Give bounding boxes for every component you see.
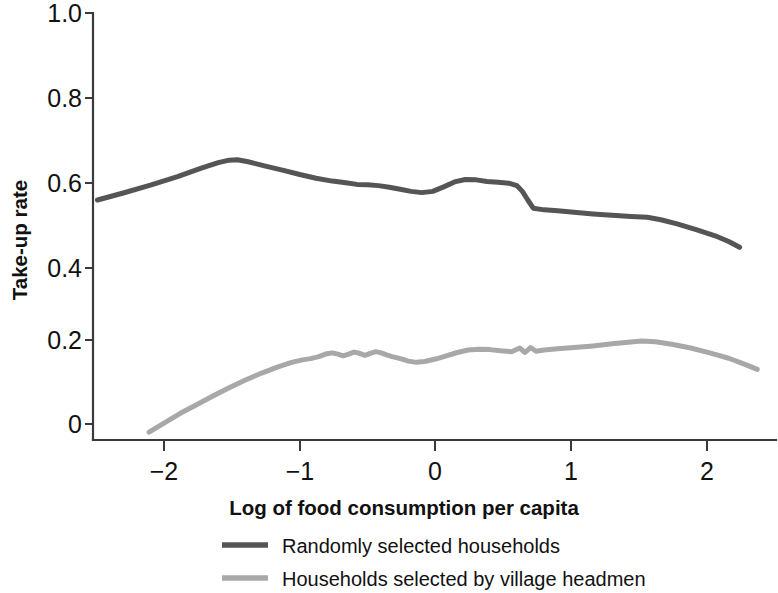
chart-figure: Take-up rate 1.0 0.8 0.6 0.4 0.2 0 −2 −1… [0, 0, 778, 593]
y-axis-title: Take-up rate [8, 180, 31, 300]
y-tick-label: 0 [68, 410, 82, 438]
legend-label-randomly-selected: Randomly selected households [282, 535, 560, 557]
y-tick-label: 0.6 [47, 169, 82, 197]
x-axis-title: Log of food consumption per capita [229, 496, 579, 519]
x-tick-label: −1 [286, 457, 315, 485]
y-tick-label: 0.2 [47, 326, 82, 354]
x-tick-label: 0 [428, 457, 442, 485]
y-tick-label: 0.8 [47, 84, 82, 112]
y-tick-label: 0.4 [47, 254, 82, 282]
x-tick-label: −2 [150, 457, 179, 485]
y-tick-label: 1.0 [47, 0, 82, 27]
x-tick-label: 1 [564, 457, 578, 485]
legend-label-headmen-selected: Households selected by village headmen [282, 568, 646, 590]
x-tick-label: 2 [700, 457, 714, 485]
